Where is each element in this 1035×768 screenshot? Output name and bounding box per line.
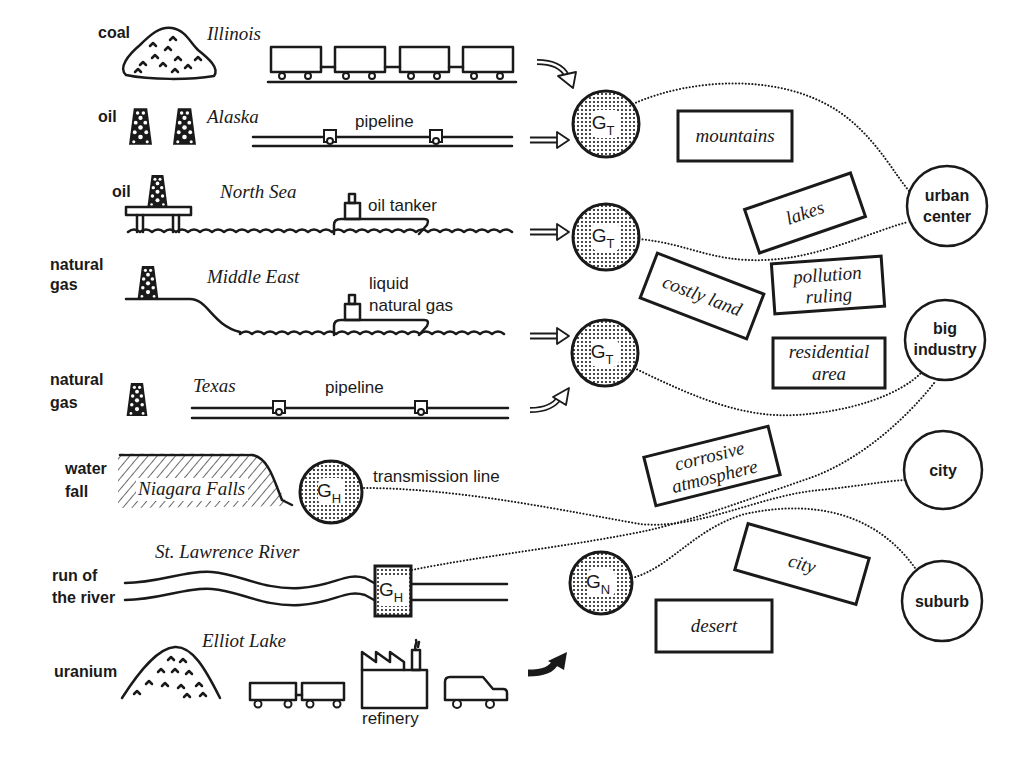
generator-hydro-river: GH	[375, 566, 411, 616]
load-label-line2: industry	[913, 341, 976, 358]
resource-label: oil	[98, 108, 117, 125]
generator-letter: G	[591, 341, 606, 362]
valve-icon	[273, 401, 285, 415]
source-coal: coal Illinois	[98, 23, 576, 88]
resource-label-line1: natural	[50, 371, 103, 388]
resource-label-line2: gas	[50, 394, 78, 411]
sea-waves	[128, 230, 512, 233]
resource-label: uranium	[54, 663, 117, 680]
load-label: city	[929, 462, 957, 479]
constraint-costly-land: costly land	[640, 253, 764, 339]
source-oil-north-sea: oil North Sea oil tanker	[112, 175, 569, 240]
refinery-icon	[362, 640, 427, 708]
offshore-platform-icon	[126, 175, 191, 232]
generator-letter: G	[592, 225, 607, 246]
pipeline-icon	[192, 401, 508, 418]
location-label: Elliot Lake	[201, 630, 286, 651]
uranium-pile-icon	[122, 647, 220, 698]
constraint-label-line1: residential	[789, 341, 870, 362]
generator-subscript: T	[606, 236, 614, 251]
double-arrow-icon	[529, 224, 569, 240]
source-oil-alaska: oil Alaska pipeline	[98, 106, 569, 148]
generator-nuclear: GN	[570, 552, 632, 614]
load-big-industry: big industry	[905, 300, 985, 380]
ore-railcars-icon	[250, 683, 344, 708]
line-hydro-falls-to-city	[364, 480, 905, 525]
location-label: Middle East	[206, 266, 300, 287]
facility-label: refinery	[362, 709, 419, 728]
load-suburb: suburb	[902, 561, 982, 641]
location-label: St. Lawrence River	[155, 541, 300, 562]
coastline	[126, 299, 240, 332]
generator-subscript: T	[606, 123, 614, 138]
source-gas-texas: natural gas Texas pipeline	[50, 371, 569, 418]
transport-label: pipeline	[355, 112, 414, 131]
location-label: Texas	[193, 375, 236, 396]
transport-label: transmission line	[373, 467, 500, 486]
coal-pile-icon	[123, 28, 215, 79]
generator-letter: G	[317, 480, 332, 501]
generator-letter: G	[592, 112, 607, 133]
generator-letter: G	[586, 571, 601, 592]
curved-arrow-icon	[530, 388, 569, 410]
constraint-desert: desert	[656, 600, 772, 652]
location-label: Alaska	[205, 106, 259, 127]
valve-icon	[324, 130, 336, 144]
curved-arrow-icon	[537, 62, 576, 88]
generator-thermal-1: GT	[573, 91, 639, 157]
location-label: Illinois	[206, 23, 261, 44]
oil-derrick-icon	[173, 108, 196, 144]
pipeline-icon	[253, 130, 512, 146]
generator-thermal-2: GT	[573, 204, 639, 270]
resource-label-line2: the river	[52, 589, 115, 606]
resource-label-line1: natural	[50, 256, 103, 273]
load-urban-center: urban center	[907, 166, 987, 246]
gas-derrick-icon	[127, 383, 148, 416]
gas-derrick-icon	[138, 266, 159, 299]
transport-label: oil tanker	[368, 196, 437, 215]
resource-label: coal	[98, 24, 130, 41]
transport-label: pipeline	[325, 378, 384, 397]
load-city: city	[904, 431, 982, 509]
source-river: St. Lawrence River run of the river GH	[52, 541, 507, 616]
constraint-pollution-ruling: pollution ruling	[771, 256, 884, 314]
resource-label-line2: fall	[65, 483, 88, 500]
generator-subscript: H	[394, 590, 403, 605]
location-label: North Sea	[219, 181, 297, 202]
sea-waves	[240, 332, 504, 335]
constraint-corrosive-atmosphere: corrosive atmosphere	[644, 426, 780, 505]
resource-label-line1: run of	[52, 567, 98, 584]
oil-derrick-icon	[129, 108, 152, 144]
constraint-label: mountains	[695, 125, 774, 146]
resource-label-line2: gas	[50, 276, 78, 293]
constraint-label-line2: ruling	[805, 283, 853, 307]
generator-hydro-falls: GH	[300, 461, 362, 523]
double-arrow-icon	[529, 328, 569, 344]
resource-label: oil	[112, 183, 131, 200]
source-gas-middle-east: natural gas Middle East liquid natural g…	[50, 256, 569, 344]
generator-letter: G	[379, 579, 394, 600]
constraint-label: desert	[691, 615, 738, 636]
constraint-lakes: lakes	[745, 173, 866, 253]
constraint-city: city	[735, 524, 869, 605]
transport-label-line2: natural gas	[369, 296, 453, 315]
constraint-mountains: mountains	[678, 111, 792, 161]
location-label: Niagara Falls	[137, 478, 245, 499]
source-uranium: Elliot Lake uranium refinery	[54, 630, 567, 728]
load-label-line1: urban	[925, 187, 969, 204]
energy-supply-diagram: coal Illinois oil	[0, 0, 1035, 768]
load-label-line1: big	[933, 320, 957, 337]
transport-label-line1: liquid	[369, 274, 409, 293]
valve-icon	[415, 401, 427, 415]
generator-subscript: N	[601, 582, 610, 597]
generator-thermal-3: GT	[572, 320, 638, 386]
bold-arrow-icon	[528, 652, 567, 673]
double-arrow-icon	[529, 132, 569, 148]
coal-train-icon	[268, 47, 516, 82]
resource-label-line1: water	[64, 460, 107, 477]
load-label-line2: center	[923, 208, 971, 225]
generator-subscript: H	[332, 491, 341, 506]
constraint-residential-area: residential area	[773, 338, 885, 388]
river-icon	[125, 572, 507, 605]
valve-icon	[430, 130, 442, 144]
